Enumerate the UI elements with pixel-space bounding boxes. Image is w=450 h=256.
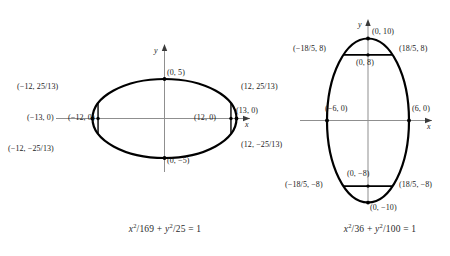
eqn2-equals: = 1 (403, 224, 416, 234)
label-right-vertex-right: (6, 0) (412, 105, 430, 113)
label-bottom-vertex-right: (0, −10) (370, 204, 397, 212)
label-top-vertex-left: (0, 5) (167, 69, 185, 77)
eqn1-y-denom: 25 (176, 224, 186, 234)
plot-canvas (0, 0, 450, 256)
eqn2-x-denom: 36 (354, 224, 364, 234)
eqn1-y-power: 2 (169, 222, 172, 229)
eqn2-y-power: 2 (379, 222, 382, 229)
label-lower-chord-mid-right: (0, −8) (347, 170, 370, 178)
point-upper-focus-right (366, 53, 369, 56)
label-left-chord-mid-left: (−12, 0) (68, 114, 95, 122)
eqn1-equals: = 1 (188, 224, 201, 234)
x-axis-label-left: x (245, 121, 249, 129)
y-axis-label-left: y (154, 47, 158, 55)
x-axis-label-right: x (427, 123, 431, 131)
eqn1-plus: + (157, 224, 163, 234)
point-top-vertex-right (366, 37, 370, 41)
point-bottom-vertex-left (163, 156, 167, 160)
label-right-chord-mid-left: (12, 0) (194, 114, 216, 122)
label-upper-chord-left-right: (−18/5, 8) (293, 45, 326, 53)
eqn2-plus: + (367, 224, 373, 234)
label-right-chord-top-left: (12, 25/13) (241, 83, 278, 91)
point-right-focus-left (229, 117, 232, 120)
point-left-vertex-right (325, 119, 329, 123)
point-right-vertex-left (235, 117, 239, 121)
label-left-chord-bottom-left: (−12, −25/13) (8, 145, 54, 153)
label-bottom-vertex-left: (0, −5) (167, 157, 190, 165)
label-right-chord-bottom-left: (12, −25/13) (241, 141, 282, 149)
eqn1-x-power: 2 (133, 222, 136, 229)
point-right-vertex-right (407, 119, 411, 123)
y-axis-arrow-left (162, 44, 167, 51)
equation-vertical-ellipse: x2/36 + y2/100 = 1 (320, 224, 440, 234)
point-lower-focus-right (366, 184, 369, 187)
label-upper-chord-mid-right: (0, 8) (356, 59, 374, 67)
point-top-vertex-left (163, 77, 167, 81)
eqn1-x-denom: 169 (139, 224, 154, 234)
ellipse-figure: y x (0, 5) (0, −5) (−13, 0) (13, 0) (−12… (0, 0, 450, 256)
label-left-chord-top-left: (−12, 25/13) (17, 83, 58, 91)
y-axis-label-right: y (358, 21, 362, 29)
label-left-vertex-right: (−6, 0) (325, 105, 348, 113)
label-lower-chord-left-right: (−18/5, −8) (285, 181, 323, 189)
eqn2-x-power: 2 (348, 222, 351, 229)
label-top-vertex-right: (0, 10) (372, 28, 394, 36)
panel-horizontal-ellipse (56, 44, 250, 172)
label-right-vertex-left: (13, 0) (236, 107, 258, 115)
label-left-vertex-left: (−13, 0) (27, 114, 54, 122)
equation-horizontal-ellipse: x2/169 + y2/25 = 1 (110, 224, 220, 234)
eqn2-y-denom: 100 (386, 224, 401, 234)
label-upper-chord-right-right: (18/5, 8) (399, 45, 427, 53)
y-axis-arrow-right (365, 19, 370, 26)
point-left-focus-left (96, 117, 99, 120)
label-lower-chord-right-right: (18/5, −8) (399, 181, 432, 189)
